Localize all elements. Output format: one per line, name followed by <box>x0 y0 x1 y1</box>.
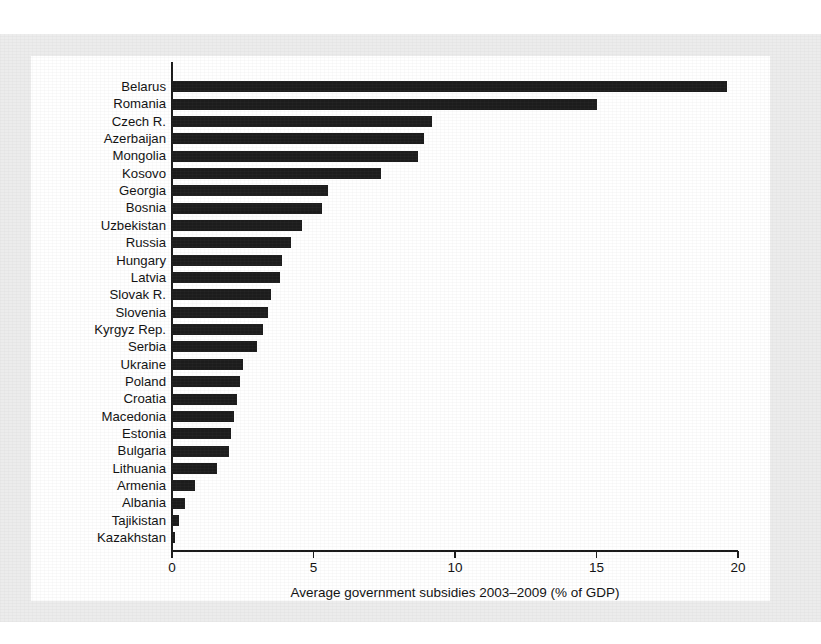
x-tick-label: 20 <box>730 560 745 575</box>
category-label: Tajikistan <box>112 512 166 529</box>
bar-chart: BelarusRomaniaCzech R.AzerbaijanMongolia… <box>0 0 821 644</box>
category-label: Lithuania <box>112 460 166 477</box>
bar <box>172 116 432 127</box>
y-axis-line <box>171 62 173 552</box>
bar <box>172 133 424 144</box>
category-label: Macedonia <box>101 408 166 425</box>
bar <box>172 376 240 387</box>
category-label: Latvia <box>131 269 166 286</box>
x-tick-label: 5 <box>310 560 318 575</box>
category-label: Croatia <box>123 390 166 407</box>
bar <box>172 498 185 509</box>
category-label: Ukraine <box>121 356 166 373</box>
bar <box>172 99 597 110</box>
bar <box>172 203 322 214</box>
bar <box>172 324 263 335</box>
x-tick-label: 10 <box>447 560 462 575</box>
category-label: Czech R. <box>112 113 166 130</box>
category-label: Georgia <box>119 182 166 199</box>
category-label: Belarus <box>121 78 166 95</box>
bar <box>172 237 291 248</box>
category-label: Albania <box>122 494 166 511</box>
category-label: Russia <box>126 234 166 251</box>
x-tick-mark <box>313 551 315 558</box>
plot-area <box>172 78 738 550</box>
bar <box>172 463 217 474</box>
figure-page: BelarusRomaniaCzech R.AzerbaijanMongolia… <box>0 0 821 644</box>
category-label: Slovak R. <box>110 286 166 303</box>
bar <box>172 151 418 162</box>
bar <box>172 220 302 231</box>
bar <box>172 255 282 266</box>
x-tick-mark <box>737 551 739 558</box>
x-tick-label: 15 <box>589 560 604 575</box>
category-label: Romania <box>113 95 166 112</box>
category-label: Slovenia <box>115 304 166 321</box>
category-label: Kyrgyz Rep. <box>94 321 166 338</box>
category-label: Estonia <box>122 425 166 442</box>
bar <box>172 307 268 318</box>
category-label: Bulgaria <box>118 442 166 459</box>
x-tick-mark <box>596 551 598 558</box>
bar <box>172 515 179 526</box>
bar <box>172 446 229 457</box>
category-label: Mongolia <box>112 147 166 164</box>
bar <box>172 359 243 370</box>
bar <box>172 394 237 405</box>
category-label: Kosovo <box>122 165 166 182</box>
bar <box>172 480 195 491</box>
x-tick-mark <box>171 551 173 558</box>
x-axis-title: Average government subsidies 2003–2009 (… <box>290 585 619 600</box>
category-label: Kazakhstan <box>97 529 166 546</box>
x-tick-mark <box>454 551 456 558</box>
bar <box>172 289 271 300</box>
category-label: Uzbekistan <box>101 217 166 234</box>
category-label: Bosnia <box>126 199 166 216</box>
bar <box>172 81 727 92</box>
category-label: Armenia <box>117 477 166 494</box>
bar <box>172 185 328 196</box>
bar <box>172 411 234 422</box>
bar <box>172 341 257 352</box>
x-tick-label: 0 <box>168 560 176 575</box>
category-label: Azerbaijan <box>104 130 166 147</box>
bar <box>172 272 280 283</box>
category-label: Hungary <box>116 252 166 269</box>
bar <box>172 168 381 179</box>
category-label: Poland <box>125 373 166 390</box>
bar <box>172 428 231 439</box>
category-label-column: BelarusRomaniaCzech R.AzerbaijanMongolia… <box>0 78 166 550</box>
category-label: Serbia <box>128 338 166 355</box>
